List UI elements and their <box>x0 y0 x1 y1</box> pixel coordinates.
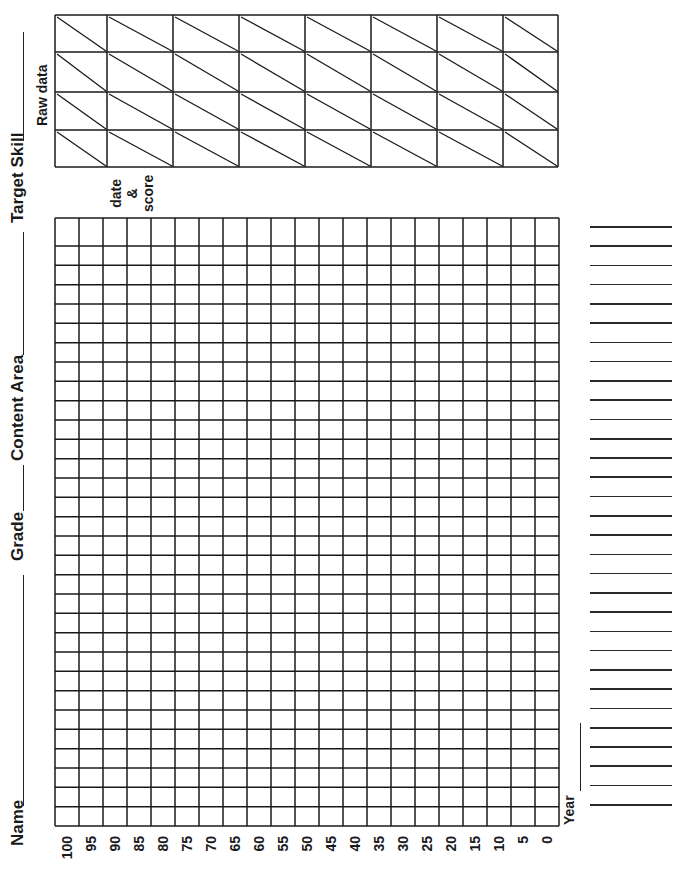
score-tick-label: 90 <box>107 836 123 866</box>
score-tick-label: 75 <box>179 836 195 866</box>
score-tick-label: 30 <box>395 836 411 866</box>
score-tick-label: 0 <box>539 836 555 866</box>
score-tick-label: 20 <box>443 836 459 866</box>
score-tick-label: 50 <box>299 836 315 866</box>
date-entry-line[interactable] <box>590 669 672 671</box>
date-entry-line[interactable] <box>590 399 672 401</box>
score-tick-label: 65 <box>227 836 243 866</box>
score-tick-label: 85 <box>131 836 147 866</box>
date-entry-line[interactable] <box>590 631 672 633</box>
date-entry-line[interactable] <box>590 708 672 710</box>
date-entry-line[interactable] <box>590 303 672 305</box>
date-entry-line[interactable] <box>590 284 672 286</box>
date-entry-line[interactable] <box>590 765 672 767</box>
date-entry-line[interactable] <box>590 496 672 498</box>
date-entry-line[interactable] <box>590 554 672 556</box>
score-tick-label: 15 <box>467 836 483 866</box>
date-entry-line[interactable] <box>590 688 672 690</box>
date-entry-line[interactable] <box>590 457 672 459</box>
score-tick-label: 55 <box>275 836 291 866</box>
date-entry-line[interactable] <box>590 380 672 382</box>
score-tick-label: 95 <box>83 836 99 866</box>
date-entry-line[interactable] <box>590 245 672 247</box>
year-label: Year <box>561 795 577 825</box>
date-entry-line[interactable] <box>590 785 672 787</box>
score-tick-label: 45 <box>323 836 339 866</box>
date-entry-line[interactable] <box>590 342 672 344</box>
date-entry-line[interactable] <box>590 592 672 594</box>
date-entry-line[interactable] <box>590 804 672 806</box>
score-tick-label: 10 <box>491 836 507 866</box>
date-entry-line[interactable] <box>590 361 672 363</box>
date-entry-line[interactable] <box>590 650 672 652</box>
score-tick-label: 25 <box>419 836 435 866</box>
date-entry-line[interactable] <box>590 438 672 440</box>
date-entry-line[interactable] <box>590 573 672 575</box>
date-entry-line[interactable] <box>590 265 672 267</box>
date-entry-line[interactable] <box>590 476 672 478</box>
score-tick-label: 35 <box>371 836 387 866</box>
date-entry-line[interactable] <box>590 534 672 536</box>
date-entry-line[interactable] <box>590 746 672 748</box>
score-tick-label: 60 <box>251 836 267 866</box>
date-entry-line[interactable] <box>590 611 672 613</box>
date-entry-line[interactable] <box>590 226 672 228</box>
score-tick-label: 80 <box>155 836 171 866</box>
score-tick-label: 40 <box>347 836 363 866</box>
score-tick-label: 100 <box>59 836 75 866</box>
date-entry-line[interactable] <box>590 515 672 517</box>
year-input-line[interactable] <box>580 723 581 791</box>
date-entry-line[interactable] <box>590 727 672 729</box>
score-tick-label: 5 <box>515 836 531 866</box>
score-tick-label: 70 <box>203 836 219 866</box>
date-entry-line[interactable] <box>590 419 672 421</box>
date-entry-line[interactable] <box>590 322 672 324</box>
score-graph-grid[interactable] <box>0 0 676 877</box>
